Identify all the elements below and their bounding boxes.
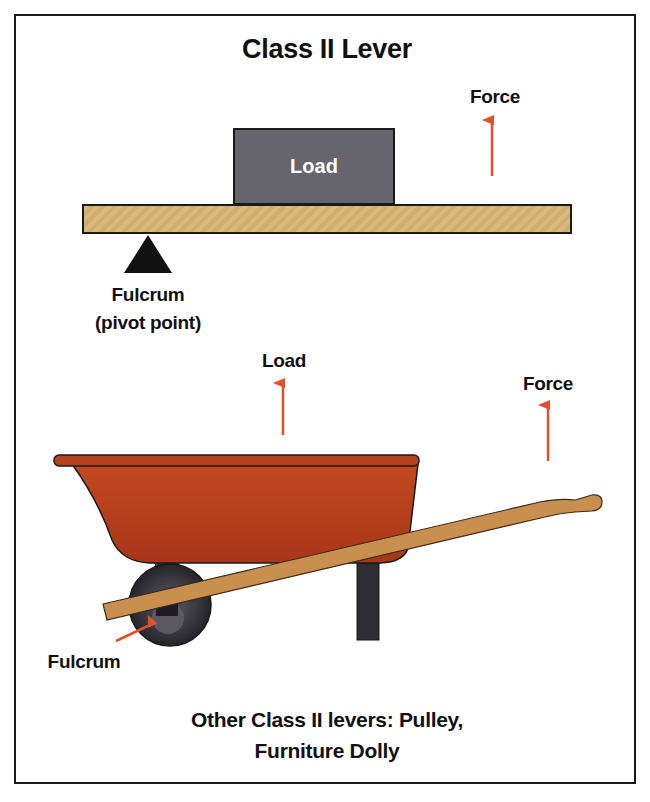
load-label-wheelbarrow: Load <box>262 350 306 372</box>
fulcrum-triangle-icon <box>124 235 172 273</box>
wheelbarrow-icon <box>54 455 602 646</box>
diagram-graphics <box>0 0 650 802</box>
caption: Other Class II levers: Pulley, Furniture… <box>191 704 463 766</box>
caption-line2: Furniture Dolly <box>191 735 463 766</box>
caption-line1: Other Class II levers: Pulley, <box>191 704 463 735</box>
fulcrum-label-wheelbarrow: Fulcrum <box>48 651 121 673</box>
tub-rim <box>54 455 419 466</box>
rear-leg <box>357 555 379 640</box>
force-label-wheelbarrow: Force <box>523 373 573 395</box>
